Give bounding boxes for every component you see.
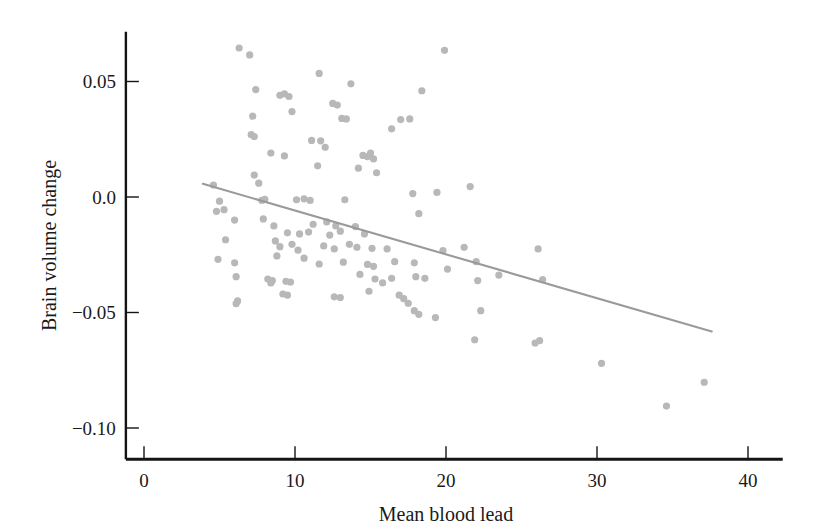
data-point xyxy=(388,275,395,282)
data-point xyxy=(293,196,300,203)
data-point xyxy=(365,288,372,295)
data-point xyxy=(421,275,428,282)
data-point xyxy=(287,278,294,285)
data-point xyxy=(343,115,350,122)
data-point xyxy=(281,90,288,97)
data-point xyxy=(433,189,440,196)
data-point xyxy=(326,232,333,239)
data-point xyxy=(288,241,295,248)
data-point xyxy=(461,244,468,251)
data-point xyxy=(296,230,303,237)
x-tick-label: 0 xyxy=(139,470,149,491)
data-point xyxy=(294,247,301,254)
data-point xyxy=(231,259,238,266)
data-point xyxy=(220,206,227,213)
data-point xyxy=(222,236,229,243)
data-point xyxy=(255,180,262,187)
data-point xyxy=(444,265,451,272)
data-point xyxy=(388,125,395,132)
data-point xyxy=(340,259,347,266)
data-point xyxy=(370,263,377,270)
data-point xyxy=(236,44,243,51)
data-point xyxy=(373,169,380,176)
data-points xyxy=(210,44,708,409)
data-point xyxy=(233,273,240,280)
data-point xyxy=(598,360,605,367)
data-point xyxy=(216,198,223,205)
data-point xyxy=(272,237,279,244)
data-point xyxy=(391,258,398,265)
data-point xyxy=(307,197,314,204)
x-axis-title: Mean blood lead xyxy=(379,503,513,525)
data-point xyxy=(284,229,291,236)
data-point xyxy=(355,165,362,172)
data-point xyxy=(314,162,321,169)
data-point xyxy=(411,259,418,266)
x-tick-label: 30 xyxy=(588,470,607,491)
data-point xyxy=(471,336,478,343)
data-point xyxy=(320,242,327,249)
data-point xyxy=(418,87,425,94)
data-point xyxy=(441,47,448,54)
x-tick-label: 20 xyxy=(437,470,456,491)
data-point xyxy=(379,279,386,286)
y-axis-title: Brain volume change xyxy=(38,160,61,331)
data-point xyxy=(284,292,291,299)
data-point xyxy=(474,277,481,284)
y-tick-label: −0.10 xyxy=(72,418,116,439)
data-point xyxy=(415,210,422,217)
data-point xyxy=(432,314,439,321)
data-point xyxy=(535,245,542,252)
axes xyxy=(126,32,783,459)
data-point xyxy=(384,245,391,252)
data-point xyxy=(495,271,502,278)
data-point xyxy=(337,228,344,235)
data-point xyxy=(310,221,317,228)
data-point xyxy=(346,241,353,248)
data-point xyxy=(371,275,378,282)
scatter-plot-figure: 0.050.0−0.05−0.10010203040Mean blood lea… xyxy=(0,0,825,531)
data-point xyxy=(531,339,538,346)
data-point xyxy=(305,229,312,236)
data-point xyxy=(316,70,323,77)
data-point xyxy=(308,137,315,144)
data-point xyxy=(316,260,323,267)
data-point xyxy=(281,152,288,159)
data-point xyxy=(260,215,267,222)
data-point xyxy=(214,256,221,263)
data-point xyxy=(415,311,422,318)
data-point xyxy=(397,116,404,123)
y-tick-label: −0.05 xyxy=(72,302,116,323)
data-point xyxy=(347,80,354,87)
data-point xyxy=(249,113,256,120)
data-point xyxy=(269,277,276,284)
data-point xyxy=(267,150,274,157)
data-point xyxy=(300,195,307,202)
data-point xyxy=(276,243,283,250)
data-point xyxy=(405,300,412,307)
data-point xyxy=(331,245,338,252)
data-point xyxy=(406,115,413,122)
data-point xyxy=(477,307,484,314)
data-point xyxy=(270,222,277,229)
data-point xyxy=(663,402,670,409)
data-point xyxy=(409,190,416,197)
data-point xyxy=(213,208,220,215)
data-point xyxy=(231,217,238,224)
data-point xyxy=(317,137,324,144)
data-point xyxy=(353,244,360,251)
data-point xyxy=(233,300,240,307)
data-point xyxy=(251,171,258,178)
data-point xyxy=(341,196,348,203)
x-tick-label: 40 xyxy=(739,470,758,491)
data-point xyxy=(252,86,259,93)
data-point xyxy=(300,255,307,262)
x-tick-label: 10 xyxy=(286,470,305,491)
plot-canvas: 0.050.0−0.05−0.10010203040Mean blood lea… xyxy=(0,0,825,531)
data-point xyxy=(273,252,280,259)
y-tick-label: 0.05 xyxy=(83,71,116,92)
data-point xyxy=(246,51,253,58)
data-point xyxy=(337,294,344,301)
data-point xyxy=(701,379,708,386)
data-point xyxy=(356,271,363,278)
